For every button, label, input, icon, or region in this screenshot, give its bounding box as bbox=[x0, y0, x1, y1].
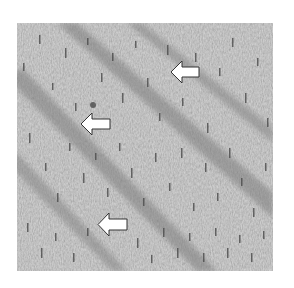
arrow-left-icon bbox=[97, 212, 128, 237]
arrow-left-icon bbox=[80, 112, 111, 136]
arrow-left-icon bbox=[170, 60, 200, 84]
texture-layer bbox=[17, 23, 273, 271]
micrograph-image bbox=[17, 23, 273, 271]
dark-spot bbox=[90, 102, 96, 108]
